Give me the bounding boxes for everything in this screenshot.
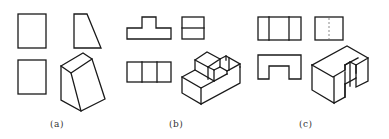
panel-a-label: (a) <box>50 119 64 129</box>
panel-a-front-view <box>18 14 46 48</box>
panel-c-top-view-u-shape <box>258 55 301 79</box>
panel-c-label: (c) <box>299 119 313 129</box>
panel-c-isometric-u-block <box>312 46 368 103</box>
panel-a <box>18 14 105 111</box>
panel-a-top-view <box>18 60 46 94</box>
panel-c <box>258 17 368 103</box>
panel-a-side-view-trapezoid <box>74 14 101 48</box>
panel-c-front-view <box>258 17 301 40</box>
panel-b-front-view-t-shape <box>127 17 171 39</box>
panel-b-label: (b) <box>169 119 183 129</box>
panel-b-isometric-step-block <box>182 52 240 104</box>
panel-c-side-view <box>315 17 343 40</box>
panel-b-side-view <box>182 17 204 39</box>
panel-b-top-view <box>127 62 171 82</box>
panel-a-isometric-wedge <box>61 53 105 111</box>
panel-b <box>127 17 240 104</box>
